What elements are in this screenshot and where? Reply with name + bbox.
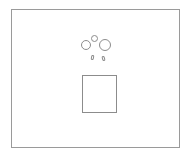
square-shape — [82, 75, 117, 113]
left-circle-icon — [81, 40, 91, 50]
top-small-circle-icon — [91, 35, 98, 42]
right-circle-icon — [99, 39, 111, 51]
